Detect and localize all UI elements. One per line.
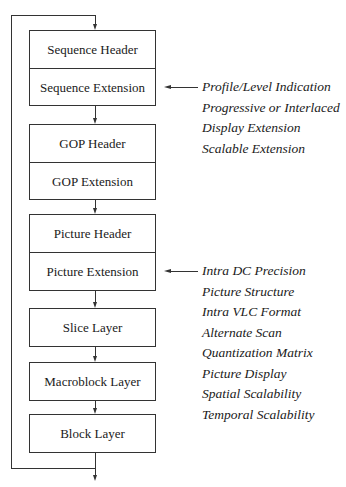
block-box: Block Layer: [29, 414, 156, 453]
arrow-down-icon: [93, 475, 97, 481]
sequence-extension: Sequence Extension: [30, 69, 155, 106]
loop-line-top: [11, 15, 96, 16]
note-item: Intra DC Precision: [202, 261, 314, 282]
loop-line-left: [11, 15, 12, 469]
slice-layer: Slice Layer: [30, 309, 155, 346]
picture-extension: Picture Extension: [30, 253, 155, 291]
note-item: Scalable Extension: [202, 139, 340, 160]
sequence-box: Sequence Header Sequence Extension: [29, 30, 156, 106]
picture-extension-notes: Intra DC Precision Picture Structure Int…: [202, 261, 314, 425]
gop-extension: GOP Extension: [30, 163, 155, 200]
arrow-left-icon: [164, 269, 171, 273]
note-item: Intra VLC Format: [202, 302, 314, 323]
sequence-header: Sequence Header: [30, 31, 155, 68]
note-item: Picture Display: [202, 364, 314, 385]
block-layer: Block Layer: [30, 415, 155, 452]
note-item: Spatial Scalability: [202, 384, 314, 405]
arrow-left-icon: [164, 85, 171, 89]
gop-box: GOP Header GOP Extension: [29, 124, 156, 200]
gop-header: GOP Header: [30, 125, 155, 162]
note-item: Display Extension: [202, 118, 340, 139]
note-item: Temporal Scalability: [202, 405, 314, 426]
note-item: Alternate Scan: [202, 323, 314, 344]
picture-header: Picture Header: [30, 215, 155, 252]
annotation-arrow-line: [170, 87, 198, 88]
picture-box: Picture Header Picture Extension: [29, 214, 156, 291]
macroblock-box: Macroblock Layer: [29, 362, 156, 401]
exit-line: [95, 452, 96, 476]
loop-line-bottom: [11, 468, 96, 469]
note-item: Picture Structure: [202, 282, 314, 303]
macroblock-layer: Macroblock Layer: [30, 363, 155, 400]
annotation-arrow-line: [170, 271, 198, 272]
note-item: Progressive or Interlaced: [202, 98, 340, 119]
note-item: Profile/Level Indication: [202, 77, 340, 98]
note-item: Quantization Matrix: [202, 343, 314, 364]
sequence-extension-notes: Profile/Level Indication Progressive or …: [202, 77, 340, 159]
slice-box: Slice Layer: [29, 308, 156, 347]
